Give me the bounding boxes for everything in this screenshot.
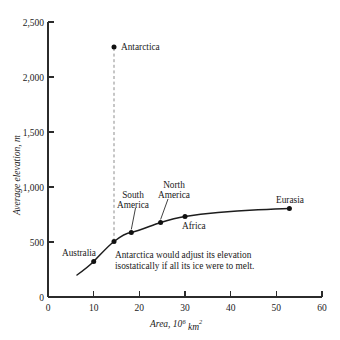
datapoint-antarctica-bedrock[interactable]	[112, 239, 117, 244]
isostatic-note-line2: isostatically if all its ice were to mel…	[115, 261, 254, 271]
isostatic-note-annotation: Antarctica would adjust its elevation is…	[115, 250, 254, 271]
x-tick-label-40: 40	[226, 303, 236, 313]
x-tick-label-0: 0	[46, 303, 51, 313]
leader-line-south-america	[131, 208, 135, 230]
datapoint-antarctica-ice[interactable]	[112, 45, 117, 50]
x-axis-title: Area, 106 km2	[149, 318, 203, 333]
datapoint-south-america[interactable]	[129, 230, 134, 235]
y-tick-label-2500: 2,500	[23, 18, 45, 28]
x-tick-label-60: 60	[317, 303, 327, 313]
label-australia: Australia	[62, 248, 96, 258]
continent-elevation-scatter-chart: 0 500 1,000 1,500 2,000 2,500 0 10 20 30…	[0, 0, 340, 340]
y-tick-marks	[48, 22, 54, 297]
y-tick-label-1500: 1,500	[23, 128, 45, 138]
x-axis-title-base: Area, 10	[149, 319, 183, 329]
datapoint-north-america[interactable]	[158, 220, 163, 225]
datapoint-africa[interactable]	[183, 214, 188, 219]
data-points-group	[91, 45, 292, 265]
datapoint-australia[interactable]	[91, 259, 96, 264]
label-north-america-line1: North	[163, 180, 185, 190]
label-eurasia: Eurasia	[276, 195, 304, 205]
y-tick-label-500: 500	[30, 238, 45, 248]
label-south-america-line2: America	[117, 200, 149, 210]
y-tick-labels: 0 500 1,000 1,500 2,000 2,500	[23, 18, 45, 303]
x-tick-label-20: 20	[135, 303, 145, 313]
label-south-america-line1: South	[122, 190, 144, 200]
point-labels-group: Antarctica Australia South America North…	[62, 42, 304, 258]
y-axis-title: Average elevation, m	[12, 135, 22, 216]
datapoint-eurasia[interactable]	[287, 206, 292, 211]
chart-figure: 0 500 1,000 1,500 2,000 2,500 0 10 20 30…	[0, 0, 340, 340]
x-tick-label-10: 10	[89, 303, 99, 313]
x-tick-marks	[48, 291, 322, 297]
x-axis-title-unit-exponent: 2	[199, 318, 203, 325]
x-axis-title-unit: km	[186, 322, 200, 332]
label-africa: Africa	[182, 221, 206, 231]
label-north-america-line2: America	[158, 190, 190, 200]
isostatic-note-line1: Antarctica would adjust its elevation	[115, 250, 252, 260]
x-tick-label-50: 50	[272, 303, 282, 313]
y-tick-label-1000: 1,000	[23, 183, 45, 193]
x-tick-labels: 0 10 20 30 40 50 60	[46, 303, 327, 313]
y-tick-label-2000: 2,000	[23, 73, 45, 83]
x-tick-label-30: 30	[180, 303, 190, 313]
leader-line-north-america	[161, 199, 168, 220]
label-antarctica: Antarctica	[121, 42, 160, 52]
y-tick-label-0: 0	[39, 293, 44, 303]
